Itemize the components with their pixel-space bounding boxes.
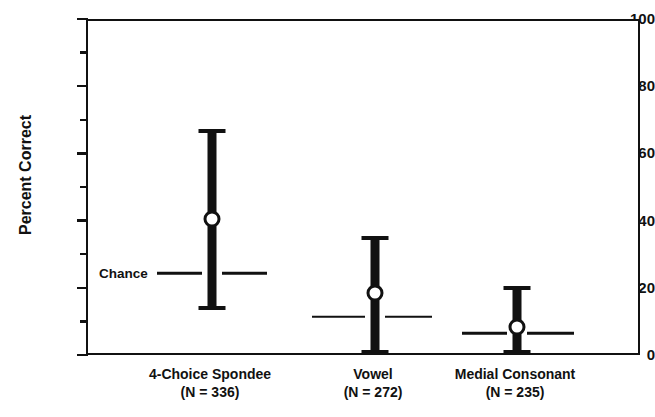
chance-line-segment — [527, 332, 574, 335]
chance-label: Chance — [99, 266, 148, 281]
mean-marker — [509, 318, 526, 335]
x-axis-category-name: 4-Choice Spondee — [149, 366, 271, 382]
figure-root: Percent Correct 020406080100 Chance 4-Ch… — [0, 0, 655, 417]
range-cap-top — [199, 129, 226, 133]
range-cap-top — [362, 236, 389, 240]
mean-marker — [367, 285, 384, 302]
range-cap-bottom — [504, 350, 531, 354]
x-axis-label-3: Medial Consonant(N = 235) — [455, 366, 576, 401]
mean-marker — [204, 211, 221, 228]
x-axis-label-2: Vowel(N = 272) — [344, 366, 403, 401]
x-axis-sample-size: (N = 336) — [149, 384, 271, 402]
range-cap-bottom — [199, 306, 226, 310]
chance-line-segment — [462, 332, 507, 335]
x-axis-category-name: Medial Consonant — [455, 366, 576, 382]
chance-line-segment — [222, 272, 267, 275]
y-axis-title: Percent Correct — [17, 75, 35, 275]
range-cap-top — [504, 286, 531, 290]
chance-line-segment — [157, 272, 202, 275]
x-axis-label-1: 4-Choice Spondee(N = 336) — [149, 366, 271, 401]
range-cap-bottom — [362, 350, 389, 354]
chance-line-segment — [385, 315, 432, 318]
plot-area: Chance — [86, 19, 640, 355]
x-axis-sample-size: (N = 272) — [344, 384, 403, 402]
x-axis-sample-size: (N = 235) — [455, 384, 576, 402]
chance-line-segment — [312, 315, 365, 318]
x-axis-category-name: Vowel — [353, 366, 392, 382]
